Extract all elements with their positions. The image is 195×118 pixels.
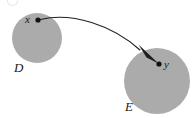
point-label-x: x — [25, 14, 30, 25]
point-dot-x — [35, 17, 40, 22]
point-dot-y — [156, 61, 161, 66]
set-label-D: D — [14, 61, 23, 74]
set-circle-E — [124, 48, 190, 114]
set-label-E: E — [125, 100, 133, 113]
mapping-diagram: x y D E — [0, 0, 195, 118]
point-label-y: y — [164, 59, 169, 70]
